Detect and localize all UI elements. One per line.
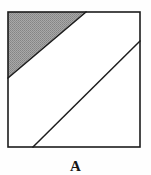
geometric-figure — [0, 0, 151, 175]
figure-label: A — [0, 158, 151, 175]
figure-container: A — [0, 0, 151, 175]
